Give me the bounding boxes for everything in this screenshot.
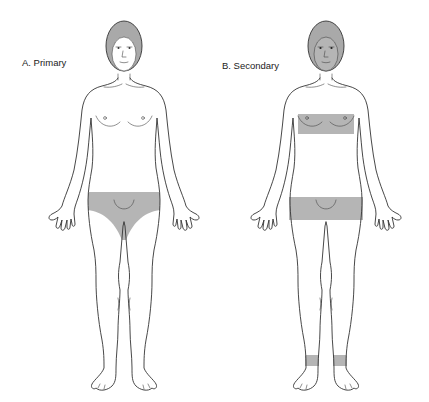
shaded-face xyxy=(314,37,338,71)
diagram-canvas: A. Primary B. Secondary xyxy=(0,0,429,402)
body-diagrams xyxy=(0,0,429,402)
shaded-ankle-band-left xyxy=(305,355,319,366)
shaded-ankle-band-right xyxy=(333,355,347,366)
shaded-pubic-area xyxy=(88,192,160,240)
figure-b xyxy=(251,21,401,390)
shaded-pelvic-band xyxy=(289,197,363,220)
figure-a xyxy=(49,21,199,390)
